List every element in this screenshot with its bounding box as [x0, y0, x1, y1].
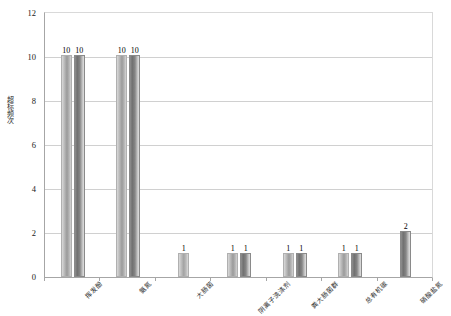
bar-5-0[interactable]: 1 — [338, 253, 349, 277]
bar-3-1[interactable]: 1 — [240, 253, 251, 277]
bar-wrap-3-1: 1 — [240, 13, 251, 277]
x-category-label-4: 粪大肠菌群 — [310, 281, 340, 311]
x-tick-6 — [377, 278, 378, 281]
x-category-label-6: 硝酸盐氮 — [419, 281, 444, 306]
bar-value-6-0: 2 — [404, 222, 408, 231]
x-tick-7 — [432, 278, 433, 281]
bar-wrap-1-1: 10 — [129, 13, 140, 277]
x-category-label-2: 大肠菌 — [195, 281, 215, 301]
bar-group-0: 10 10 — [45, 13, 101, 277]
bar-6-0[interactable]: 2 — [400, 231, 411, 277]
bar-wrap-5-1: 1 — [351, 13, 362, 277]
bar-value-4-1: 1 — [299, 244, 303, 253]
bar-value-1-1: 10 — [131, 46, 139, 55]
bar-value-5-1: 1 — [355, 244, 359, 253]
bar-wrap-0-0: 10 — [61, 13, 72, 277]
x-category-label-0: 挥发酚 — [84, 281, 104, 301]
x-tick-2 — [155, 278, 156, 281]
bar-0-0[interactable]: 10 — [61, 55, 72, 277]
y-tick-label-0: 0 — [16, 272, 36, 282]
bar-4-1[interactable]: 1 — [296, 253, 307, 277]
bar-wrap-3-0: 1 — [227, 13, 238, 277]
bar-group-6: 2 — [378, 13, 434, 277]
bar-value-2-0: 1 — [182, 244, 186, 253]
bar-value-3-1: 1 — [244, 244, 248, 253]
bar-group-2: 1 — [156, 13, 212, 277]
bar-wrap-5-0: 1 — [338, 13, 349, 277]
y-tick-label-6: 6 — [16, 140, 36, 150]
x-category-label-3: 阴离子洗涤剂 — [257, 281, 292, 316]
bar-value-0-0: 10 — [62, 46, 70, 55]
bar-wrap-4-0: 1 — [283, 13, 294, 277]
bar-value-1-0: 10 — [118, 46, 126, 55]
bar-value-3-0: 1 — [231, 244, 235, 253]
bar-wrap-4-1: 1 — [296, 13, 307, 277]
bar-wrap-2-0: 1 — [178, 13, 189, 277]
y-tick-label-12: 12 — [16, 8, 36, 18]
plot-area: 10 10 10 10 — [44, 12, 433, 278]
y-tick-label-4: 4 — [16, 184, 36, 194]
y-tick-label-2: 2 — [16, 228, 36, 238]
bar-wrap-1-0: 10 — [116, 13, 127, 277]
bar-value-4-0: 1 — [286, 244, 290, 253]
bar-0-1[interactable]: 10 — [74, 55, 85, 277]
bar-group-4: 1 1 — [267, 13, 323, 277]
x-tick-0 — [44, 278, 45, 281]
y-tick-label-8: 8 — [16, 96, 36, 106]
bar-group-1: 10 10 — [101, 13, 157, 277]
bar-wrap-6-0: 2 — [400, 13, 411, 277]
bar-value-5-0: 1 — [342, 244, 346, 253]
bar-wrap-0-1: 10 — [74, 13, 85, 277]
y-axis-title: 超标频次 — [0, 96, 14, 124]
x-category-label-1: 氨氮 — [138, 281, 153, 296]
bar-4-0[interactable]: 1 — [283, 253, 294, 277]
bar-group-3: 1 1 — [212, 13, 268, 277]
x-category-label-5: 总有机碳 — [364, 281, 389, 306]
bar-5-1[interactable]: 1 — [351, 253, 362, 277]
bar-1-0[interactable]: 10 — [116, 55, 127, 277]
x-tick-5 — [321, 278, 322, 281]
bar-2-0[interactable]: 1 — [178, 253, 189, 277]
bar-group-5: 1 1 — [323, 13, 379, 277]
bar-3-0[interactable]: 1 — [227, 253, 238, 277]
y-tick-label-10: 10 — [16, 52, 36, 62]
bar-value-0-1: 10 — [75, 46, 83, 55]
x-tick-4 — [266, 278, 267, 281]
bar-1-1[interactable]: 10 — [129, 55, 140, 277]
